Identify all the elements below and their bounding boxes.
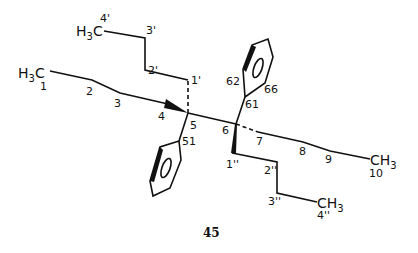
methyl-group-c4p: H3C	[76, 23, 103, 42]
wedge-bond-c6-c1pp	[231, 124, 237, 153]
atom-label-c1: 1	[40, 80, 47, 93]
atom-label-c1pp: 1''	[226, 158, 239, 171]
atom-label-c2p: 2'	[148, 64, 158, 77]
atom-label-c6: 6	[222, 124, 229, 137]
atom-label-c9: 9	[325, 153, 332, 166]
bond-prime-chain	[104, 31, 188, 80]
atom-label-c51: 51	[182, 135, 196, 148]
atom-label-c4pp: 4''	[317, 209, 330, 222]
atom-label-c62: 62	[226, 75, 240, 88]
phenyl-ring-lower	[150, 141, 181, 196]
bond-c7-c10	[258, 132, 370, 159]
dashed-bond-c6-c7	[236, 124, 258, 132]
atom-label-c4p: 4'	[100, 12, 110, 25]
atom-label-c5: 5	[190, 119, 197, 132]
atom-label-c3: 3	[114, 97, 121, 110]
atom-label-c4: 4	[158, 110, 165, 123]
atom-label-c2: 2	[86, 85, 93, 98]
atom-label-c10: 10	[369, 167, 383, 180]
atom-label-c1p: 1'	[191, 74, 201, 87]
atom-label-c66: 66	[264, 83, 278, 96]
atom-label-c3p: 3'	[146, 24, 156, 37]
wedge-bond-c4-c5	[164, 99, 188, 113]
atom-label-c61: 61	[245, 98, 259, 111]
compound-number: 45	[203, 226, 220, 240]
atom-label-c3pp: 3''	[268, 195, 281, 208]
atom-label-c7: 7	[256, 135, 263, 148]
bond-c6-c61	[236, 97, 245, 124]
atom-label-c2pp: 2''	[264, 164, 277, 177]
atom-label-c8: 8	[299, 145, 306, 158]
structure-diagram: H3C H3C CH3 CH3 1 2 3 4 5 6 7 8 9 10 1' …	[0, 0, 418, 253]
